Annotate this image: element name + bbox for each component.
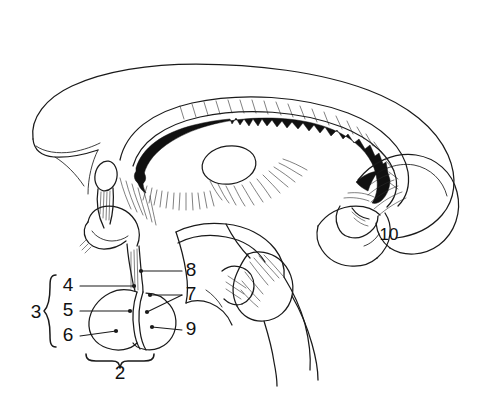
leader-dot-7a bbox=[148, 293, 152, 297]
left-brace bbox=[44, 275, 56, 347]
label-3: 3 bbox=[31, 301, 42, 322]
leader-dot-7b bbox=[145, 310, 149, 314]
leader-dot-5 bbox=[128, 309, 132, 313]
label-10: 10 bbox=[380, 225, 399, 244]
brain-midsagittal-diagram: 2 3 4 5 6 7 8 9 10 bbox=[0, 0, 483, 405]
label-7: 7 bbox=[186, 283, 197, 304]
braces bbox=[44, 275, 154, 368]
anatomical-figure: 2 3 4 5 6 7 8 9 10 bbox=[0, 0, 483, 405]
leader-6 bbox=[80, 331, 116, 336]
pituitary-gland bbox=[89, 290, 176, 350]
label-8: 8 bbox=[186, 259, 197, 280]
label-6: 6 bbox=[63, 324, 74, 345]
midbrain-hatch bbox=[241, 255, 283, 307]
cerebellum-foliation bbox=[344, 193, 374, 226]
leader-dot-4 bbox=[132, 284, 136, 288]
brainstem bbox=[176, 223, 318, 386]
septum-fringe bbox=[120, 178, 156, 225]
thalamus-radiating-hatch bbox=[210, 159, 307, 206]
label-5: 5 bbox=[63, 299, 74, 320]
anterior-commissure bbox=[93, 159, 120, 228]
leader-dot-9 bbox=[150, 325, 154, 329]
label-9: 9 bbox=[186, 318, 197, 339]
number-labels: 2 3 4 5 6 7 8 9 10 bbox=[31, 225, 399, 383]
leader-dot-6 bbox=[114, 329, 118, 333]
label-2: 2 bbox=[115, 362, 126, 383]
choroid-plexus-fringe bbox=[143, 186, 214, 210]
leader-9 bbox=[152, 327, 182, 330]
hypothalamus bbox=[80, 206, 139, 253]
stalk-shading bbox=[131, 249, 138, 290]
cerebrum-outline bbox=[33, 64, 454, 238]
thalamus-oval bbox=[200, 142, 307, 206]
label-4: 4 bbox=[63, 274, 74, 295]
leader-7b bbox=[147, 295, 182, 312]
leader-dot-8 bbox=[139, 269, 143, 273]
